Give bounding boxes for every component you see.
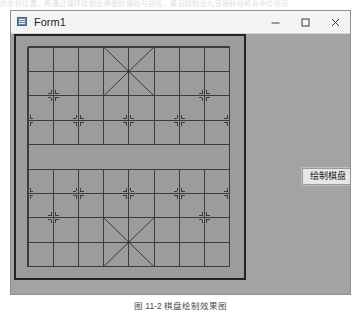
minimize-icon xyxy=(270,17,281,28)
close-button[interactable] xyxy=(320,11,350,33)
window-titlebar[interactable]: Form1 xyxy=(11,11,350,34)
window-controls xyxy=(260,11,350,33)
minimize-button[interactable] xyxy=(260,11,290,33)
window-title: Form1 xyxy=(34,17,66,28)
scanned-page: 的坐标位置，再通过循环绘制出棋盘的横线与竖线，最后绘制出九宫格斜线和兵卒位标记 … xyxy=(0,0,361,312)
close-icon xyxy=(330,17,341,28)
application-window: Form1 xyxy=(10,10,351,295)
app-window-icon xyxy=(17,16,29,28)
window-client-area: 绘制棋盘 xyxy=(11,34,350,295)
chessboard-panel[interactable] xyxy=(14,34,246,280)
draw-board-button[interactable]: 绘制棋盘 xyxy=(302,168,351,185)
page-top-cut-text: 的坐标位置，再通过循环绘制出棋盘的横线与竖线，最后绘制出九宫格斜线和兵卒位标记 xyxy=(0,0,361,7)
xiangqi-board-graphic xyxy=(16,36,244,278)
maximize-icon xyxy=(300,17,311,28)
figure-caption: 图 11-2 棋盘绘制效果图 xyxy=(0,301,361,312)
maximize-button[interactable] xyxy=(290,11,320,33)
